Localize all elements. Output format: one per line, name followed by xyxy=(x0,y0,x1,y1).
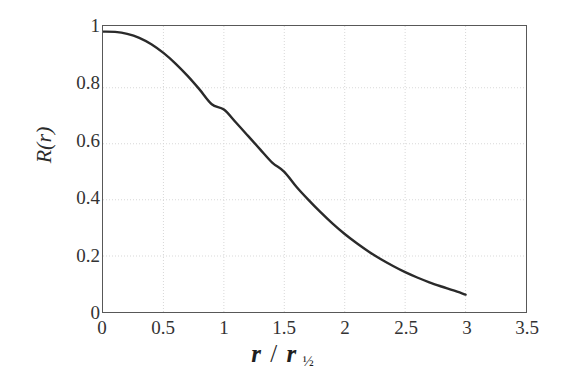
y-tick-label: 0.6 xyxy=(54,131,100,151)
y-axis-title: R(r) xyxy=(31,115,57,175)
x-tick-label: 2 xyxy=(317,316,373,340)
y-tick-label: 0.4 xyxy=(54,188,100,208)
plot-area xyxy=(102,25,527,313)
x-axis-title: r / r ½ xyxy=(0,340,565,370)
x-tick-label: 1.5 xyxy=(256,316,312,340)
x-axis-title-slash: / xyxy=(267,340,280,367)
x-tick-label: 3 xyxy=(439,316,495,340)
chart-figure: 1 0.8 0.6 0.4 0.2 0 R(r) 0 0.5 1 1.5 2 2… xyxy=(0,0,565,385)
y-tick-label: 0.8 xyxy=(54,73,100,93)
data-curve xyxy=(103,26,526,312)
x-axis-title-numerator: r xyxy=(251,340,261,367)
x-tick-label: 3.5 xyxy=(499,316,555,340)
y-tick-label: 1 xyxy=(54,16,100,36)
x-tick-label: 0.5 xyxy=(135,316,191,340)
x-tick-label: 0 xyxy=(74,316,130,340)
x-tick-label: 2.5 xyxy=(378,316,434,340)
x-axis-title-denominator: r xyxy=(286,340,296,367)
y-tick-label: 0.2 xyxy=(54,246,100,266)
x-axis-title-subscript: ½ xyxy=(302,353,313,369)
x-tick-label: 1 xyxy=(196,316,252,340)
